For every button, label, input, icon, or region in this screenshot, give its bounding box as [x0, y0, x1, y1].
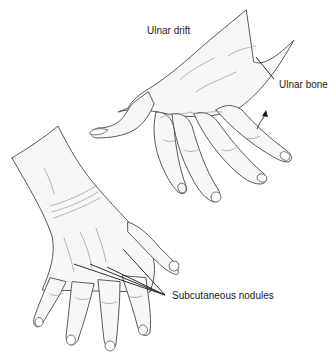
ulnar-drift-label: Ulnar drift: [147, 26, 190, 36]
illustration-canvas: Ulnar drift Ulnar bone Subcutaneous nodu…: [0, 0, 336, 360]
subcutaneous-nodules-label: Subcutaneous nodules: [172, 291, 274, 301]
upper-hand-ulnar-drift: [90, 10, 294, 202]
ulnar-bone-label: Ulnar bone: [279, 80, 328, 90]
hands-illustration: [0, 0, 336, 360]
lower-hand-nodules: [12, 126, 181, 351]
